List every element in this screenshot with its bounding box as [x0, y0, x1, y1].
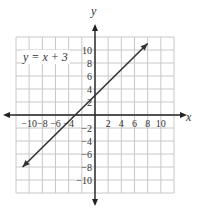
x-tick-label: 8 — [145, 118, 150, 129]
y-tick-label: 4 — [87, 84, 92, 95]
y-tick-label: −6 — [81, 149, 92, 160]
x-axis-arrow-left-icon — [3, 112, 10, 118]
y-axis-label: y — [90, 4, 97, 18]
x-tick-label: −6 — [50, 118, 61, 129]
y-tick-label: 10 — [82, 45, 92, 56]
x-axis-label: x — [185, 110, 192, 124]
x-tick-label: −10 — [21, 118, 37, 129]
y-axis-arrow-up-icon — [92, 24, 98, 31]
y-axis-arrow-down-icon — [92, 199, 98, 206]
y-tick-label: −2 — [81, 123, 92, 134]
coordinate-plane: −10−8−6−4246810108642−2−4−6−8−10 y = x +… — [0, 0, 199, 208]
y-tick-label: −4 — [81, 136, 92, 147]
y-tick-label: 6 — [87, 71, 92, 82]
y-tick-label: 8 — [87, 58, 92, 69]
y-tick-label: −8 — [81, 162, 92, 173]
x-tick-label: 10 — [156, 118, 166, 129]
x-tick-label: 6 — [132, 118, 137, 129]
x-tick-label: 4 — [119, 118, 124, 129]
equation-label: y = x + 3 — [22, 50, 68, 64]
x-tick-label: −8 — [37, 118, 48, 129]
x-tick-label: 2 — [106, 118, 111, 129]
y-tick-label: −10 — [76, 175, 92, 186]
x-tick-label: −4 — [63, 118, 74, 129]
